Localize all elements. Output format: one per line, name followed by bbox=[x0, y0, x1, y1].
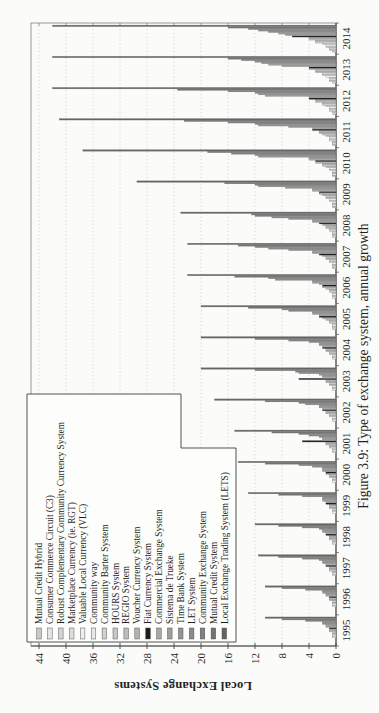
bar bbox=[326, 532, 336, 533]
bar bbox=[279, 33, 336, 34]
legend-swatch bbox=[91, 628, 96, 639]
bar bbox=[323, 163, 337, 164]
bar bbox=[326, 411, 336, 412]
x-tick-label-1998: 1998 bbox=[340, 525, 352, 548]
bar bbox=[326, 624, 336, 625]
bar bbox=[319, 344, 336, 345]
bar bbox=[329, 568, 336, 569]
x-tick-label-2012: 2012 bbox=[340, 90, 352, 112]
bar bbox=[329, 137, 336, 138]
bar bbox=[333, 448, 336, 449]
x-tick-label-2001: 2001 bbox=[340, 433, 352, 455]
bar bbox=[228, 122, 336, 123]
bar bbox=[333, 574, 336, 575]
bar bbox=[282, 65, 336, 66]
bar-cluster-2013 bbox=[53, 56, 337, 83]
bar bbox=[333, 510, 336, 511]
legend-swatch bbox=[157, 628, 162, 639]
bar bbox=[333, 633, 336, 634]
bar bbox=[329, 169, 336, 170]
bar-cluster-2012 bbox=[53, 87, 337, 114]
bar bbox=[323, 562, 337, 563]
x-tick-label-2002: 2002 bbox=[340, 401, 352, 423]
bar bbox=[329, 447, 336, 448]
legend-label: Fiat Currency System bbox=[143, 542, 153, 624]
bar bbox=[323, 317, 337, 318]
bar bbox=[316, 99, 336, 100]
bar bbox=[181, 212, 336, 213]
bar bbox=[201, 368, 336, 369]
bar bbox=[329, 48, 336, 49]
bar bbox=[285, 34, 336, 35]
bar bbox=[326, 135, 336, 136]
legend-swatch bbox=[80, 628, 85, 639]
y-tick-label: 12 bbox=[249, 653, 261, 664]
bar bbox=[312, 282, 336, 283]
bar bbox=[312, 466, 336, 467]
bar bbox=[316, 71, 336, 72]
bar bbox=[302, 526, 336, 527]
bar bbox=[333, 573, 336, 574]
bar bbox=[188, 274, 337, 275]
bar bbox=[329, 415, 336, 416]
bar bbox=[333, 355, 336, 356]
legend-swatch bbox=[211, 628, 216, 639]
bar bbox=[333, 541, 336, 542]
bar bbox=[184, 120, 336, 121]
bar bbox=[319, 316, 336, 317]
bar bbox=[333, 234, 336, 235]
bar bbox=[255, 92, 336, 93]
bar bbox=[333, 292, 336, 293]
bar-cluster-2001 bbox=[235, 430, 336, 452]
legend-label: Consumer Commerce Circuit (C3) bbox=[45, 495, 56, 624]
bar bbox=[302, 558, 336, 559]
bar bbox=[255, 524, 336, 525]
bar bbox=[326, 288, 336, 289]
bar bbox=[333, 387, 336, 388]
y-tick-label: 44 bbox=[33, 653, 45, 665]
legend-item: Valuable Local Currency (VLC) bbox=[78, 504, 89, 639]
x-tick-label-2008: 2008 bbox=[340, 214, 352, 237]
bar bbox=[333, 205, 336, 206]
bar bbox=[319, 406, 336, 407]
bar bbox=[238, 461, 336, 462]
bar bbox=[333, 325, 336, 326]
bar bbox=[323, 286, 337, 287]
bar bbox=[333, 602, 336, 603]
bar bbox=[333, 171, 336, 172]
y-tick-label: 28 bbox=[141, 653, 153, 665]
bar bbox=[329, 77, 336, 78]
bar-cluster-2004 bbox=[201, 337, 336, 359]
bar bbox=[299, 402, 336, 403]
bar bbox=[231, 153, 336, 154]
legend-item: Voucher Currency System bbox=[132, 526, 142, 639]
legend-label: REGIO System bbox=[121, 565, 131, 624]
bar bbox=[326, 381, 336, 382]
bar bbox=[333, 267, 336, 268]
x-tick-label-2014: 2014 bbox=[340, 27, 352, 50]
bar bbox=[333, 450, 336, 451]
bar bbox=[329, 445, 336, 446]
bar bbox=[333, 386, 336, 387]
bar bbox=[309, 39, 336, 40]
legend-label: Time Bank System bbox=[176, 552, 186, 624]
y-tick-label: 0 bbox=[330, 653, 342, 659]
bar bbox=[329, 230, 336, 231]
bar bbox=[323, 529, 337, 530]
x-tick-label-1995: 1995 bbox=[340, 619, 352, 642]
bar bbox=[329, 228, 336, 229]
bar bbox=[323, 500, 337, 501]
bar bbox=[255, 246, 336, 247]
legend-label: Mutual Credit System bbox=[209, 541, 219, 624]
bar bbox=[329, 476, 336, 477]
bar bbox=[333, 636, 336, 637]
y-tick-label: 4 bbox=[303, 653, 315, 659]
bar bbox=[309, 96, 336, 97]
bar bbox=[319, 343, 336, 344]
bar bbox=[238, 245, 336, 246]
x-tick-label-2013: 2013 bbox=[340, 58, 352, 81]
bar bbox=[333, 512, 336, 513]
x-tick-label-2004: 2004 bbox=[340, 339, 352, 362]
bar bbox=[279, 525, 336, 526]
bar bbox=[333, 326, 336, 327]
